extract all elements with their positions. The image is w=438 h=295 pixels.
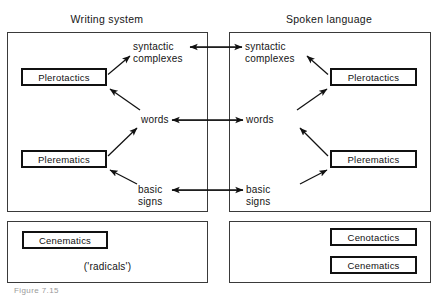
node-box-cenematics-spoken[interactable]: Cenematics — [330, 256, 417, 274]
figure-caption: Figure 7.15 — [14, 286, 59, 295]
node-box-plerematics-writing[interactable]: Plerematics — [21, 150, 107, 168]
label-line-1: basic — [246, 184, 270, 196]
label-basic-signs-spoken: basic signs — [246, 184, 270, 207]
label-basic-signs-writing: basic signs — [138, 184, 162, 207]
node-box-cenotactics-spoken[interactable]: Cenotactics — [330, 228, 417, 246]
column-header-spoken-language: Spoken language — [222, 13, 436, 25]
label-line-2: complexes — [133, 53, 183, 65]
label-line-1: syntactic — [245, 41, 295, 53]
column-header-writing-system: Writing system — [0, 13, 214, 25]
label-line-1: basic — [138, 184, 162, 196]
node-box-plerotactics-spoken[interactable]: Plerotactics — [330, 68, 417, 86]
label-radicals-note: ('radicals') — [7, 261, 208, 272]
node-box-cenematics-writing[interactable]: Cenematics — [22, 231, 108, 249]
node-box-plerematics-spoken[interactable]: Plerematics — [330, 150, 417, 168]
label-words-writing: words — [141, 114, 169, 126]
label-words-spoken: words — [246, 114, 274, 126]
figure-container: Writing system Spoken language — [0, 0, 438, 295]
label-line-2: complexes — [245, 53, 295, 65]
label-line-2: signs — [246, 196, 270, 208]
label-line-2: signs — [138, 196, 162, 208]
label-syntactic-complexes-spoken: syntactic complexes — [245, 41, 295, 64]
label-syntactic-complexes-writing: syntactic complexes — [133, 41, 183, 64]
label-line-1: syntactic — [133, 41, 183, 53]
node-box-plerotactics-writing[interactable]: Plerotactics — [21, 68, 107, 86]
